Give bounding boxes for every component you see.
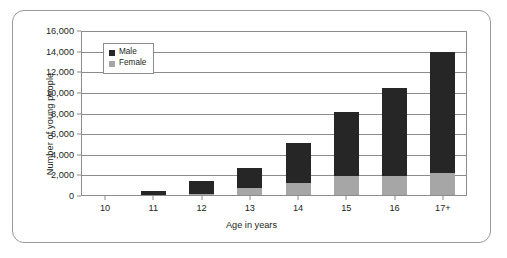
legend-label-male: Male — [119, 48, 137, 56]
chart-frame: Number of young people 02,0004,0006,0008… — [12, 10, 491, 243]
bar-segment-female — [286, 183, 311, 196]
y-tick-label: 10,000 — [46, 88, 74, 98]
x-axis-title: Age in years — [13, 220, 490, 230]
bar-segment-male — [237, 168, 262, 188]
x-tick-label: 10 — [100, 203, 110, 213]
bar-segment-male — [430, 52, 455, 174]
x-tick-label: 14 — [293, 203, 303, 213]
x-tick-label: 12 — [197, 203, 207, 213]
bar-segment-female — [430, 173, 455, 196]
bar-segment-female — [334, 176, 359, 196]
legend-swatch-male-icon — [109, 50, 115, 56]
y-tick-label: 0 — [69, 191, 74, 201]
bar-segment-male — [189, 181, 214, 195]
x-tick-label: 13 — [245, 203, 255, 213]
x-tick-label: 16 — [390, 203, 400, 213]
bar-segment-female — [237, 188, 262, 196]
x-tick-mark — [201, 196, 202, 200]
plot-area: 02,0004,0006,0008,00010,00012,00014,0001… — [81, 31, 467, 196]
bar-stack — [286, 143, 311, 196]
bar-segment-male — [286, 143, 311, 183]
x-tick-mark — [105, 196, 106, 200]
y-tick-label: 2,000 — [51, 170, 74, 180]
x-tick-mark — [249, 196, 250, 200]
y-tick-label: 16,000 — [46, 26, 74, 36]
y-tick-label: 12,000 — [46, 67, 74, 77]
bar-stack — [382, 88, 407, 196]
x-tick-mark — [442, 196, 443, 200]
x-tick-mark — [153, 196, 154, 200]
bar-stack — [237, 168, 262, 196]
x-tick-label: 17+ — [435, 203, 451, 213]
x-tick-mark — [298, 196, 299, 200]
y-tick-label: 4,000 — [51, 150, 74, 160]
y-tick-label: 14,000 — [46, 47, 74, 57]
bar-stack — [334, 112, 359, 196]
legend-item-male: Male — [109, 47, 146, 58]
bar-stack — [430, 52, 455, 196]
legend-swatch-female-icon — [109, 61, 115, 67]
bar-segment-male — [334, 112, 359, 176]
legend-label-female: Female — [119, 59, 146, 67]
x-tick-label: 11 — [149, 203, 159, 213]
legend: Male Female — [103, 43, 154, 74]
legend-item-female: Female — [109, 58, 146, 69]
bar-stack — [189, 181, 214, 196]
bar-segment-male — [382, 88, 407, 176]
x-tick-mark — [346, 196, 347, 200]
x-tick-label: 15 — [341, 203, 351, 213]
bar-segment-female — [382, 176, 407, 196]
x-tick-mark — [394, 196, 395, 200]
y-tick-label: 8,000 — [51, 109, 74, 119]
y-tick-label: 6,000 — [51, 129, 74, 139]
